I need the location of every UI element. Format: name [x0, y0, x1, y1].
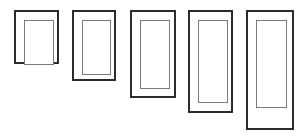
rectangle-pair-3-inner: [140, 20, 170, 89]
rectangle-pair-3-outer: [130, 10, 176, 98]
rectangle-pair-5-outer: [246, 10, 294, 130]
rectangle-pair-5-inner: [256, 20, 287, 108]
rectangle-pair-4-inner: [198, 20, 228, 103]
rectangle-pair-4-outer: [188, 10, 233, 113]
rectangle-pair-2-inner: [82, 20, 111, 75]
rectangle-pair-2-outer: [72, 10, 116, 81]
rectangle-pair-1-inner: [24, 20, 54, 65]
diagram-canvas: [0, 0, 303, 136]
rectangle-pair-1-outer: [14, 10, 59, 64]
